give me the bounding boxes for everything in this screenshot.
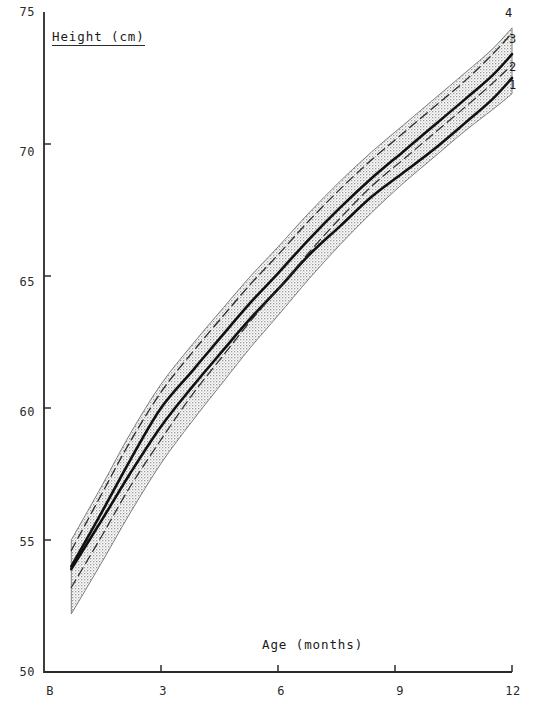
x-axis-title: Age (months): [262, 637, 363, 652]
y-tick-label: 55: [5, 535, 35, 549]
y-tick-label: 50: [5, 665, 35, 679]
x-tick-label: 9: [387, 684, 413, 698]
y-tick-label: 65: [5, 275, 35, 289]
y-tick-label: 60: [5, 405, 35, 419]
x-tick-label: 6: [268, 684, 294, 698]
curve-label-1: 1: [509, 78, 516, 92]
curve-label-4: 4: [505, 6, 512, 20]
y-tick-label: 70: [5, 145, 35, 159]
curve-lines: [71, 33, 512, 587]
curve-label-2: 2: [509, 60, 516, 74]
x-tick-label: 12: [500, 684, 526, 698]
growth-chart: Height (cm) Age (months) 757065605550B36…: [0, 0, 538, 727]
curve-label-3: 3: [509, 32, 516, 46]
x-tick-label: B: [37, 684, 63, 698]
y-tick-label: 75: [5, 5, 35, 19]
x-tick-label: 3: [150, 684, 176, 698]
y-axis-title: Height (cm): [52, 29, 145, 46]
chart-plot-area: [0, 0, 538, 727]
